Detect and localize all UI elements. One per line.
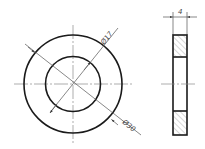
- technical-drawing: Ø17 Ø30 4: [0, 0, 205, 149]
- bottom-section-hatch: [173, 111, 187, 135]
- side-view: 4: [161, 8, 197, 135]
- thickness-label: 4: [178, 8, 182, 16]
- outer-diameter-label: Ø30: [120, 118, 138, 134]
- front-view: Ø17 Ø30: [14, 25, 141, 143]
- thickness-dimension: 4: [163, 8, 197, 35]
- top-section-hatch: [173, 35, 187, 57]
- inner-diameter-dimension: Ø17: [50, 28, 118, 113]
